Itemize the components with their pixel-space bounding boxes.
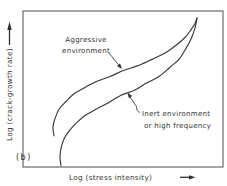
x-axis-arrow-icon bbox=[180, 175, 196, 179]
inert-annotation-line2: or high frequency bbox=[144, 122, 211, 130]
inert-annotation-line1: Inert environment bbox=[142, 110, 210, 118]
aggressive-annotation-line2: environment bbox=[62, 47, 110, 55]
aggressive-leader-line bbox=[109, 53, 119, 65]
x-axis-label: Log (stress intensity) bbox=[69, 173, 152, 182]
y-axis-label: Log (crack-growth rate) bbox=[5, 48, 14, 141]
aggressive-annotation-line1: Aggressive bbox=[65, 36, 106, 44]
inert-arrowhead-icon bbox=[128, 93, 133, 99]
figure-canvas: Aggressive environment Inert environment… bbox=[0, 0, 227, 186]
panel-label: (b) bbox=[16, 153, 32, 162]
figure-panel-b: Aggressive environment Inert environment… bbox=[0, 0, 227, 186]
y-axis-arrow-icon bbox=[7, 22, 11, 46]
